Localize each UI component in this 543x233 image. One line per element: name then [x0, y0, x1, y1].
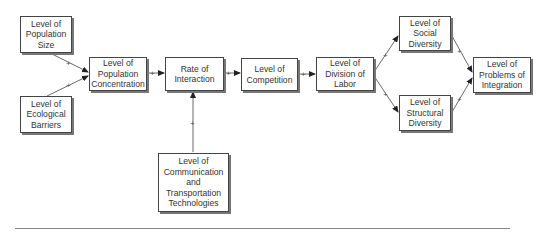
svg-text:+: + — [190, 119, 195, 128]
node-rate-of-interaction: Rate of Interaction — [165, 57, 224, 91]
svg-text:+: + — [66, 59, 71, 68]
edge-structural-to-problems — [452, 78, 472, 112]
node-problems-of-integration: Level of Problems of Integration — [473, 57, 531, 93]
node-ecological-barriers: Level of Ecological Barriers — [20, 96, 72, 133]
svg-text:+: + — [150, 69, 155, 78]
node-social-diversity: Level of Social Diversity — [399, 16, 451, 51]
svg-text:+: + — [301, 70, 306, 79]
svg-text:+: + — [457, 47, 462, 56]
node-division-of-labor: Level of Division of Labor — [316, 57, 374, 91]
bottom-divider — [15, 228, 510, 229]
svg-text:+: + — [383, 51, 388, 60]
svg-text:+: + — [383, 90, 388, 99]
diagram-edges: + + + + + + + + + + — [0, 0, 543, 233]
svg-text:+: + — [226, 69, 231, 78]
svg-text:+: + — [66, 81, 71, 90]
svg-text:+: + — [457, 95, 462, 104]
node-population-concentration: Level of Population Concentration — [89, 57, 147, 91]
node-structural-diversity: Level of Structural Diversity — [399, 95, 451, 131]
edge-social-to-problems — [452, 36, 472, 72]
node-communication-transportation: Level of Communication and Transportatio… — [158, 153, 229, 212]
node-population-size: Level of Population Size — [20, 16, 72, 53]
node-competition: Level of Competition — [241, 58, 298, 91]
